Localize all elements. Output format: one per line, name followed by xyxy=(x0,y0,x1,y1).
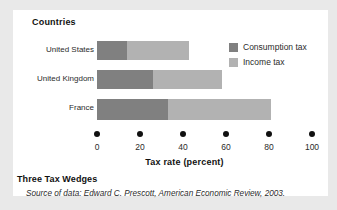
bar-segment-consumption-tax xyxy=(97,70,153,89)
x-axis-tick-label: 100 xyxy=(297,142,327,152)
x-axis-tick-label: 40 xyxy=(168,142,198,152)
x-axis-title: Tax rate (percent) xyxy=(97,157,272,167)
x-axis-tick-label: 60 xyxy=(211,142,241,152)
source-author: Edward C. Prescott, xyxy=(84,189,157,198)
x-axis-tick-dot xyxy=(223,131,229,137)
x-axis-tick-label: 80 xyxy=(254,142,284,152)
source-prefix: Source of data: xyxy=(26,189,82,198)
category-label-united-states: United States xyxy=(16,45,94,54)
bar-segment-consumption-tax xyxy=(97,99,168,120)
figure-title: Three Tax Wedges xyxy=(17,174,97,184)
bar-segment-income-tax xyxy=(168,99,271,120)
legend-item-consumption-tax: Consumption tax xyxy=(229,42,307,52)
x-axis-tick-dot xyxy=(180,131,186,137)
legend-item-income-tax: Income tax xyxy=(229,57,307,67)
source-year: 2003. xyxy=(265,189,286,198)
figure-source: Source of data: Edward C. Prescott, Amer… xyxy=(26,189,285,198)
legend-label-income-tax: Income tax xyxy=(243,57,285,67)
chart-legend: Consumption tax Income tax xyxy=(229,42,307,72)
category-label-france: France xyxy=(16,103,94,112)
legend-swatch-icon xyxy=(229,43,238,52)
axis-group-header: Countries xyxy=(32,17,76,27)
bar-segment-consumption-tax xyxy=(97,41,127,60)
chart-plot-area: Countries United States United Kingdom F… xyxy=(0,0,337,210)
bar-segment-income-tax xyxy=(127,41,189,60)
x-axis-tick-label: 0 xyxy=(82,142,112,152)
bar-segment-income-tax xyxy=(153,70,222,89)
x-axis-tick-label: 20 xyxy=(125,142,155,152)
legend-label-consumption-tax: Consumption tax xyxy=(243,42,307,52)
x-axis-tick-dot xyxy=(94,131,100,137)
x-axis-tick-dot xyxy=(137,131,143,137)
legend-swatch-icon xyxy=(229,58,238,67)
x-axis-tick-dot xyxy=(266,131,272,137)
source-journal: American Economic Review, xyxy=(159,189,263,198)
x-axis-tick-dot xyxy=(309,131,315,137)
category-label-united-kingdom: United Kingdom xyxy=(16,74,94,83)
